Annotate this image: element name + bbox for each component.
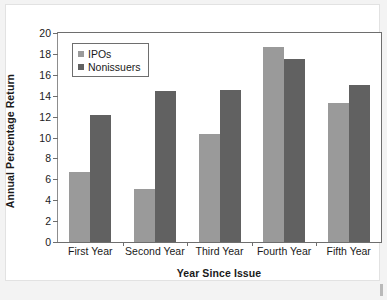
x-axis-title: Year Since Issue bbox=[54, 267, 384, 279]
bar-ipos-fifth-year bbox=[328, 103, 349, 242]
bar-nonissuers-fourth-year bbox=[284, 59, 305, 242]
y-tick-label: 6 bbox=[45, 173, 51, 185]
x-tick-label-third-year: Third Year bbox=[196, 245, 244, 257]
legend-label: IPOs bbox=[88, 48, 111, 60]
y-tick-label: 20 bbox=[39, 27, 51, 39]
x-tick-mark bbox=[187, 242, 188, 246]
legend-label: Nonissuers bbox=[88, 61, 141, 73]
y-tick-label: 0 bbox=[45, 236, 51, 248]
y-tick-mark bbox=[53, 33, 58, 34]
y-tick-mark bbox=[53, 117, 58, 118]
bar-ipos-third-year bbox=[199, 134, 220, 242]
legend-swatch-icon bbox=[78, 64, 84, 70]
y-tick-label: 8 bbox=[45, 152, 51, 164]
y-tick-mark bbox=[53, 158, 58, 159]
y-tick-label: 10 bbox=[39, 132, 51, 144]
x-tick-mark bbox=[252, 242, 253, 246]
y-tick-mark bbox=[53, 221, 58, 222]
x-tick-label-second-year: Second Year bbox=[125, 245, 185, 257]
y-tick-mark bbox=[53, 75, 58, 76]
x-tick-mark bbox=[316, 242, 317, 246]
y-tick-label: 14 bbox=[39, 90, 51, 102]
y-tick-mark bbox=[53, 138, 58, 139]
chart-canvas: Annual Percentage Return Year Since Issu… bbox=[5, 4, 380, 281]
corner-mark bbox=[380, 284, 383, 296]
y-tick-label: 16 bbox=[39, 69, 51, 81]
y-tick-mark bbox=[53, 54, 58, 55]
chart-legend: IPOsNonissuers bbox=[72, 43, 149, 77]
bar-nonissuers-fifth-year bbox=[349, 85, 370, 242]
y-tick-mark bbox=[53, 96, 58, 97]
y-axis-title: Annual Percentage Return bbox=[4, 41, 18, 241]
bar-nonissuers-third-year bbox=[220, 90, 241, 242]
legend-item-ipos: IPOs bbox=[78, 47, 141, 60]
y-tick-label: 2 bbox=[45, 215, 51, 227]
y-tick-label: 18 bbox=[39, 48, 51, 60]
legend-swatch-icon bbox=[78, 51, 84, 57]
x-tick-label-fifth-year: Fifth Year bbox=[327, 245, 371, 257]
y-tick-label: 12 bbox=[39, 111, 51, 123]
bar-ipos-second-year bbox=[134, 189, 155, 242]
bar-ipos-fourth-year bbox=[263, 47, 284, 242]
y-tick-mark bbox=[53, 242, 58, 243]
bar-nonissuers-first-year bbox=[90, 115, 111, 242]
chart-figure: Annual Percentage Return Year Since Issu… bbox=[0, 0, 387, 300]
plot-area: 02468101214161820First YearSecond YearTh… bbox=[57, 32, 382, 243]
y-tick-label: 4 bbox=[45, 194, 51, 206]
x-tick-mark bbox=[123, 242, 124, 246]
x-tick-label-fourth-year: Fourth Year bbox=[257, 245, 311, 257]
bar-nonissuers-second-year bbox=[155, 91, 176, 242]
y-tick-mark bbox=[53, 200, 58, 201]
y-tick-mark bbox=[53, 179, 58, 180]
x-tick-label-first-year: First Year bbox=[68, 245, 112, 257]
legend-item-nonissuers: Nonissuers bbox=[78, 60, 141, 73]
bar-ipos-first-year bbox=[69, 172, 90, 242]
